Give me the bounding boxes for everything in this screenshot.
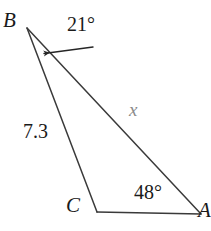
triangle-figure: B C A 21° 48° 7.3 x [0, 0, 211, 231]
angle-b-leader-line [44, 47, 93, 54]
side-ca-line [97, 212, 201, 214]
side-ba-line [27, 28, 201, 214]
vertex-label-b: B [3, 10, 16, 31]
triangle-drawing-canvas [0, 0, 211, 231]
vertex-label-a: A [198, 200, 211, 221]
side-unknown-x: x [129, 100, 137, 119]
angle-measure-b: 21° [67, 14, 95, 34]
side-length-bc: 7.3 [23, 121, 48, 141]
vertex-label-c: C [66, 195, 80, 216]
angle-measure-a: 48° [134, 182, 162, 202]
